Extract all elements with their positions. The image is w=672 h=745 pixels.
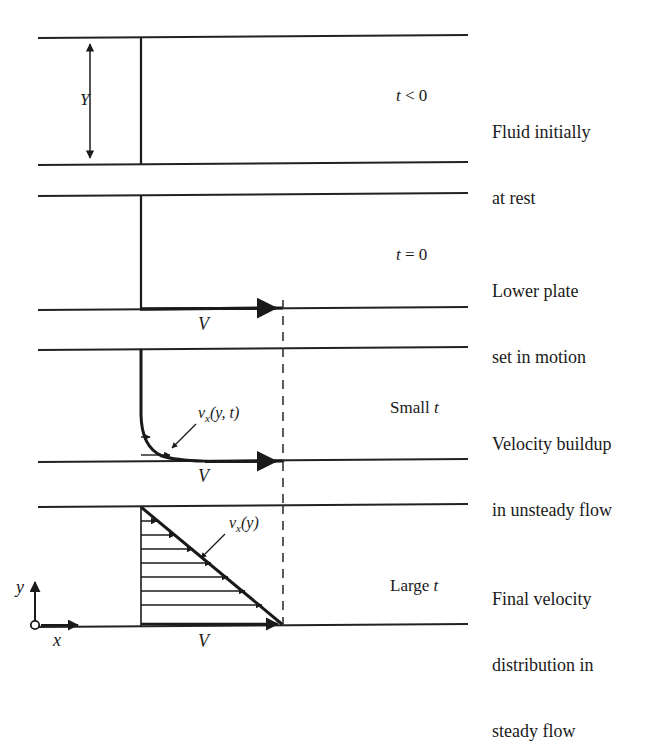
plate-velocity-label-row-2: V — [198, 314, 209, 336]
description-row-1: Fluid initially at rest — [492, 78, 591, 254]
upper-plate-line — [38, 35, 468, 38]
plate-velocity-label-row-3: V — [198, 466, 209, 488]
description-line: distribution in — [492, 655, 594, 677]
description-line: set in motion — [492, 347, 586, 369]
panel-t-equals-zero — [38, 193, 468, 345]
time-label-row-1: t < 0 — [396, 86, 427, 107]
profile-label-leader-line — [201, 534, 225, 558]
time-variable-italic: t — [434, 576, 439, 595]
description-line: steady flow — [492, 721, 594, 743]
profile-label-leader-line — [172, 424, 196, 448]
x-axis-label: x — [53, 630, 61, 652]
upper-plate-line — [38, 347, 468, 350]
upper-plate-line — [38, 193, 468, 196]
plate-velocity-arrow — [140, 308, 276, 309]
origin-marker-icon — [31, 621, 39, 629]
velocity-arguments: (y, t) — [210, 404, 239, 421]
description-line: Lower plate — [492, 281, 586, 303]
lower-plate-line — [38, 162, 468, 165]
velocity-profile-label-steady: vx(y) — [229, 513, 259, 536]
velocity-profile-label-unsteady: vx(y, t) — [198, 403, 239, 426]
description-line: at rest — [492, 188, 591, 210]
description-row-2: Lower plate set in motion — [492, 237, 586, 413]
description-line: in unsteady flow — [492, 500, 612, 522]
y-axis-label: y — [16, 577, 24, 599]
velocity-arguments: (y) — [241, 514, 259, 531]
description-row-4: Final velocity distribution in steady fl… — [492, 545, 594, 745]
velocity-profile-line-steady — [141, 507, 283, 625]
time-variable-italic: t — [434, 398, 439, 417]
description-line: Velocity buildup — [492, 434, 612, 456]
description-line: Fluid initially — [492, 122, 591, 144]
description-line: Final velocity — [492, 589, 594, 611]
time-relation: < 0 — [401, 86, 428, 105]
time-label-row-4: Large t — [390, 576, 438, 597]
coordinate-axes — [31, 582, 78, 629]
time-label-row-3: Small t — [390, 398, 439, 419]
description-row-3: Velocity buildup in unsteady flow — [492, 390, 612, 566]
time-label-row-2: t = 0 — [396, 245, 427, 266]
plate-velocity-label-row-4: V — [198, 631, 209, 653]
upper-plate-line — [38, 504, 468, 507]
panel-small-t — [38, 347, 468, 505]
gap-label: Y — [80, 90, 89, 111]
time-prefix: Large — [390, 576, 434, 595]
time-relation: = 0 — [401, 245, 428, 264]
time-prefix: Small — [390, 398, 434, 417]
